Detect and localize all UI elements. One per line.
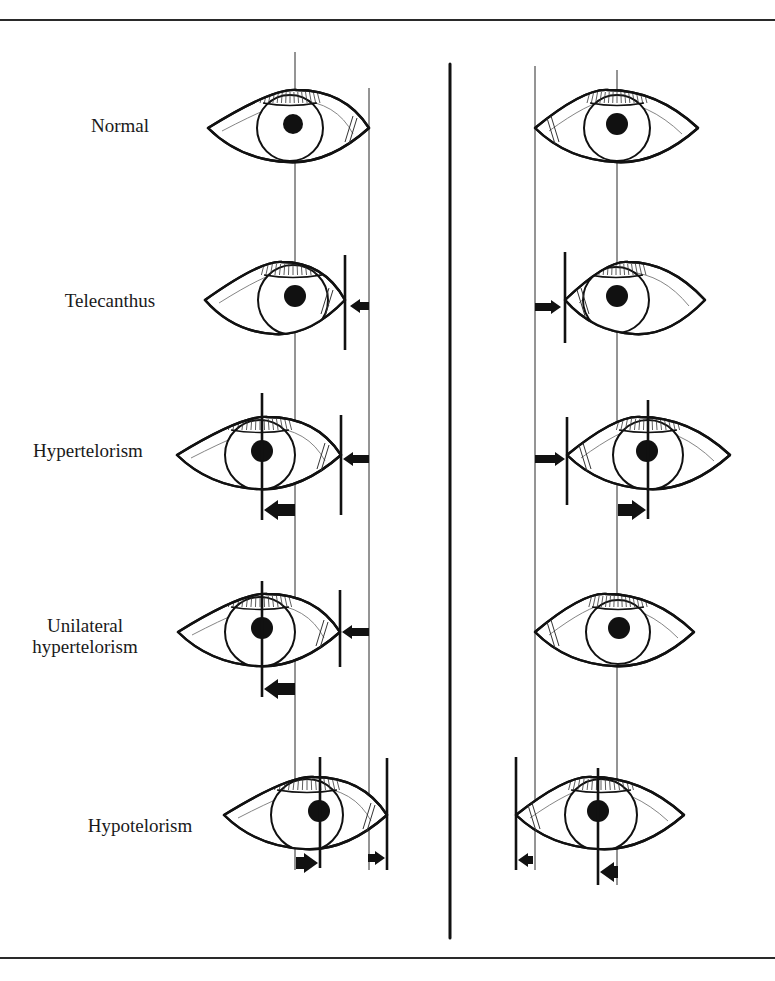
pupil bbox=[606, 285, 628, 307]
left-eye-hypotelorism bbox=[224, 777, 387, 851]
right-eye-hypotelorism bbox=[516, 777, 684, 851]
row-telecanthus bbox=[205, 252, 705, 350]
pupil bbox=[606, 113, 628, 135]
arrow-left-icon bbox=[343, 452, 369, 466]
row-normal bbox=[208, 90, 698, 162]
arrow-left-icon bbox=[264, 679, 295, 699]
left-eye-telecanthus bbox=[205, 262, 345, 335]
right-eye-unilateral-hypertelorism bbox=[535, 594, 694, 666]
condition-rows bbox=[177, 90, 730, 885]
reference-lines bbox=[295, 52, 617, 885]
label-hypertelorism: Hypertelorism bbox=[8, 440, 168, 461]
arrow-right-icon bbox=[296, 853, 318, 873]
arrow-left-icon bbox=[350, 299, 369, 313]
label-hypotelorism: Hypotelorism bbox=[60, 815, 220, 836]
left-eye-unilateral-hypertelorism bbox=[178, 594, 340, 667]
arrow-right-icon bbox=[535, 452, 565, 466]
iris-hatching bbox=[586, 264, 589, 275]
arrow-right-icon bbox=[368, 851, 385, 865]
arrow-left-icon bbox=[342, 625, 369, 639]
left-eye-hypertelorism bbox=[177, 417, 341, 490]
left-eye-normal bbox=[208, 90, 369, 162]
right-eye-telecanthus bbox=[565, 262, 705, 334]
row-hypotelorism bbox=[224, 757, 684, 885]
pupil bbox=[284, 285, 306, 307]
arrow-left-icon bbox=[264, 500, 295, 520]
row-hypertelorism bbox=[177, 393, 730, 520]
arrow-left-icon bbox=[600, 862, 618, 882]
pupil bbox=[283, 114, 303, 134]
label-normal: Normal bbox=[40, 115, 200, 136]
label-unilateral-hypertelorism: Unilateralhypertelorism bbox=[5, 615, 165, 657]
arrow-left-icon bbox=[518, 853, 533, 867]
arrow-right-icon bbox=[535, 300, 561, 314]
right-eye-normal bbox=[535, 90, 698, 162]
iris-group bbox=[271, 779, 343, 851]
label-telecanthus: Telecanthus bbox=[30, 290, 190, 311]
pupil bbox=[608, 617, 630, 639]
arrow-right-icon bbox=[618, 500, 646, 520]
iris-hatching bbox=[590, 264, 592, 275]
